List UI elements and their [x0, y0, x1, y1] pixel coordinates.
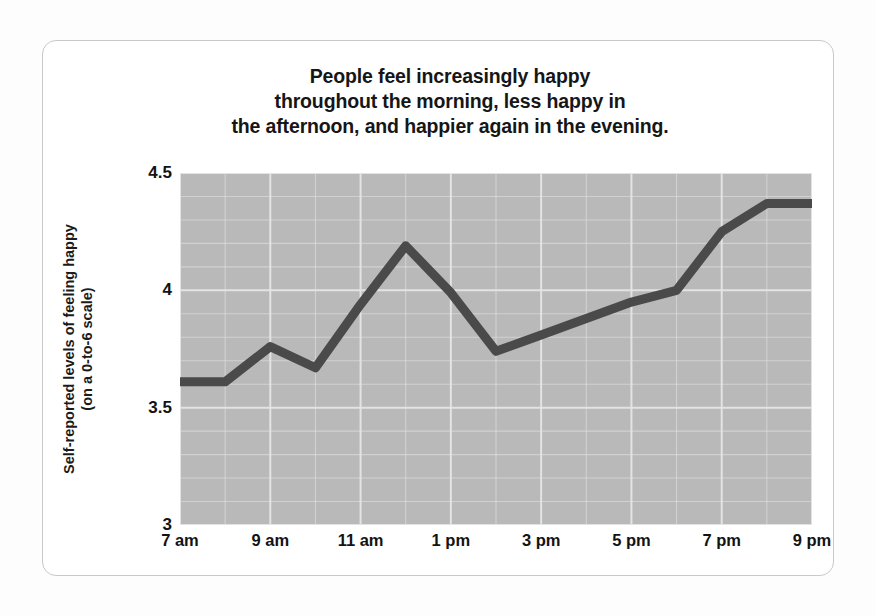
chart-title: People feel increasingly happy throughou… [150, 64, 750, 139]
plot-area [180, 173, 812, 525]
x-axis-tick-3: 1 pm [406, 531, 496, 550]
chart-title-line-3: the afternoon, and happier again in the … [150, 114, 750, 139]
chart-title-line-1: People feel increasingly happy [150, 64, 750, 89]
x-axis-tick-0: 7 am [135, 531, 225, 550]
x-axis-tick-4: 3 pm [496, 531, 586, 550]
happiness-line-series [180, 173, 812, 525]
y-axis-label-text: Self-reported levels of feeling happy (o… [60, 224, 96, 474]
y-axis-tick-1: 4 [112, 280, 172, 300]
y-axis-label: Self-reported levels of feeling happy (o… [58, 173, 98, 525]
x-axis-tick-6: 7 pm [677, 531, 767, 550]
y-axis-label-line-1: Self-reported levels of feeling happy [60, 224, 78, 474]
y-axis-tick-2: 3.5 [112, 398, 172, 418]
y-axis-tick-0: 4.5 [112, 163, 172, 183]
x-axis-tick-7: 9 pm [767, 531, 857, 550]
x-axis-tick-1: 9 am [225, 531, 315, 550]
y-axis-tick-labels: 4.543.53 [110, 173, 172, 525]
x-axis-tick-2: 11 am [316, 531, 406, 550]
chart-figure: People feel increasingly happy throughou… [0, 0, 876, 616]
x-axis-tick-labels: 7 am9 am11 am1 pm3 pm5 pm7 pm9 pm [180, 531, 812, 559]
x-axis-tick-5: 5 pm [586, 531, 676, 550]
y-axis-label-line-2: (on a 0-to-6 scale) [78, 224, 96, 474]
chart-title-line-2: throughout the morning, less happy in [150, 89, 750, 114]
